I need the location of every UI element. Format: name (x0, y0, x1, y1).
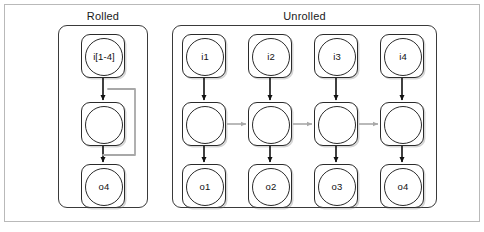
rolled-input-node[interactable]: i[1-4] (81, 34, 125, 78)
unrolled-panel-title: Unrolled (172, 10, 437, 22)
unrolled-hidden-circle-2 (252, 106, 290, 144)
unrolled-input-node-3[interactable]: i3 (314, 34, 358, 78)
unrolled-input-label-2: i2 (267, 52, 275, 62)
unrolled-output-label-3: o3 (332, 182, 343, 192)
rolled-output-label: o4 (99, 182, 110, 192)
unrolled-hidden-node-3[interactable] (314, 102, 358, 146)
rolled-input-label: i[1-4] (93, 52, 115, 62)
unrolled-input-circle-2: i2 (252, 38, 290, 76)
unrolled-input-label-4: i4 (399, 52, 407, 62)
rolled-hidden-circle (85, 106, 123, 144)
unrolled-input-circle-4: i4 (384, 38, 422, 76)
unrolled-hidden-circle-4 (384, 106, 422, 144)
rolled-input-circle: i[1-4] (85, 38, 123, 76)
unrolled-hidden-circle-1 (186, 106, 224, 144)
unrolled-output-label-4: o4 (398, 182, 409, 192)
unrolled-input-circle-3: i3 (318, 38, 356, 76)
unrolled-output-circle-3: o3 (318, 168, 356, 206)
unrolled-output-circle-4: o4 (384, 168, 422, 206)
unrolled-output-label-1: o1 (200, 182, 211, 192)
unrolled-output-node-3[interactable]: o3 (314, 164, 358, 208)
unrolled-input-node-1[interactable]: i1 (182, 34, 226, 78)
unrolled-output-circle-1: o1 (186, 168, 224, 206)
unrolled-input-node-2[interactable]: i2 (248, 34, 292, 78)
rolled-output-node[interactable]: o4 (81, 164, 125, 208)
unrolled-output-node-4[interactable]: o4 (380, 164, 424, 208)
unrolled-output-label-2: o2 (266, 182, 277, 192)
rolled-panel-title: Rolled (58, 10, 148, 22)
unrolled-output-node-2[interactable]: o2 (248, 164, 292, 208)
rolled-hidden-node[interactable] (81, 102, 125, 146)
unrolled-output-node-1[interactable]: o1 (182, 164, 226, 208)
unrolled-input-label-3: i3 (333, 52, 341, 62)
unrolled-input-node-4[interactable]: i4 (380, 34, 424, 78)
unrolled-hidden-node-1[interactable] (182, 102, 226, 146)
unrolled-hidden-node-2[interactable] (248, 102, 292, 146)
unrolled-output-circle-2: o2 (252, 168, 290, 206)
unrolled-input-circle-1: i1 (186, 38, 224, 76)
unrolled-hidden-node-4[interactable] (380, 102, 424, 146)
unrolled-hidden-circle-3 (318, 106, 356, 144)
unrolled-input-label-1: i1 (201, 52, 209, 62)
rnn-rolled-unrolled-figure: Rolled i[1-4] o4 Unrolled i1 o1 (0, 0, 484, 232)
rolled-output-circle: o4 (85, 168, 123, 206)
